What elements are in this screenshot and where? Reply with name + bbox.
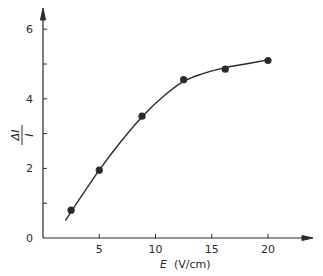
x-axis-arrow-icon — [302, 236, 313, 241]
axes — [41, 8, 314, 241]
y-tick-label: 0 — [26, 232, 33, 245]
data-point-icon — [68, 207, 75, 214]
x-tick-label: 10 — [149, 243, 163, 256]
data-point-icon — [264, 57, 271, 64]
chart: 51015200246 E (V/cm) ΔI I — [0, 0, 323, 276]
x-tick-label: 20 — [261, 243, 275, 256]
axis-labels: E (V/cm) ΔI I — [9, 125, 211, 271]
data-point-icon — [96, 167, 103, 174]
x-tick-label: 5 — [96, 243, 103, 256]
y-tick-label: 4 — [26, 93, 33, 106]
ticks: 51015200246 — [26, 23, 275, 256]
data-point-icon — [180, 76, 187, 83]
x-tick-label: 15 — [205, 243, 219, 256]
x-axis-label-unit: (V/cm) — [174, 258, 211, 271]
y-axis-label-denominator: I — [23, 133, 36, 136]
y-axis-label-numerator: ΔI — [9, 130, 22, 142]
y-axis-arrow-icon — [41, 8, 46, 20]
y-axis-label: ΔI I — [9, 125, 36, 145]
fit-curve-line — [66, 60, 269, 221]
y-tick-label: 2 — [26, 162, 33, 175]
data-point-icon — [222, 66, 229, 73]
fit-curve — [66, 60, 269, 221]
y-tick-label: 6 — [26, 23, 33, 36]
data-points — [68, 57, 272, 214]
data-point-icon — [138, 113, 145, 120]
x-axis-label-var: E — [160, 258, 167, 271]
